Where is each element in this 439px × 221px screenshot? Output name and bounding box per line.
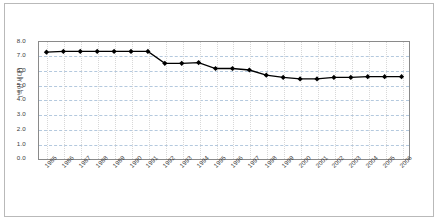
data-point-marker xyxy=(247,67,252,72)
data-point-marker xyxy=(179,61,184,66)
data-point-marker xyxy=(230,66,235,71)
data-point-marker xyxy=(78,49,83,54)
data-point-marker xyxy=(61,49,66,54)
data-point-marker xyxy=(297,76,302,81)
data-point-marker xyxy=(281,75,286,80)
data-point-marker xyxy=(331,75,336,80)
data-point-marker xyxy=(314,76,319,81)
data-point-marker xyxy=(264,73,269,78)
data-point-marker xyxy=(365,74,370,79)
data-point-marker xyxy=(382,74,387,79)
data-line xyxy=(46,51,401,79)
data-point-marker xyxy=(196,60,201,65)
data-point-marker xyxy=(213,66,218,71)
data-point-marker xyxy=(399,74,404,79)
data-point-marker xyxy=(348,75,353,80)
data-point-marker xyxy=(95,49,100,54)
data-point-marker xyxy=(111,49,116,54)
data-point-marker xyxy=(44,50,49,55)
line-chart: (백만 세대) 8.0 7.0 6.0 5.0 4.0 3.0 2.0 1.0 … xyxy=(0,0,439,221)
data-markers xyxy=(44,49,404,82)
data-series-layer xyxy=(0,0,439,221)
data-point-marker xyxy=(128,49,133,54)
